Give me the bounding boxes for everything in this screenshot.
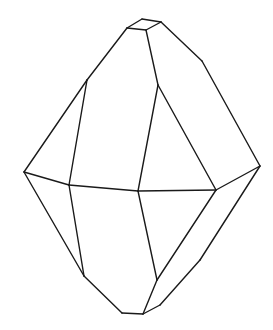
crystal-edge xyxy=(200,166,260,260)
crystal-edge xyxy=(84,276,122,313)
crystal-edge xyxy=(146,22,161,30)
crystal-edge xyxy=(142,19,161,22)
crystal-edge xyxy=(127,28,146,30)
crystal-edge xyxy=(138,85,158,191)
crystal-edge xyxy=(138,190,216,191)
crystal-edge xyxy=(127,19,142,28)
crystal-edge xyxy=(87,28,127,80)
crystal-edge xyxy=(122,313,143,314)
crystal-edge xyxy=(161,22,202,61)
crystal-edge xyxy=(216,166,260,190)
crystal-edge xyxy=(146,30,158,85)
crystal-edge xyxy=(158,85,216,190)
crystal-edge xyxy=(69,185,138,191)
crystal-edge xyxy=(69,80,87,185)
crystal-edge xyxy=(138,191,157,280)
crystal-edge xyxy=(157,190,216,280)
crystal-edge xyxy=(143,280,157,314)
crystal-drawing xyxy=(0,0,273,330)
crystal-edge xyxy=(202,61,260,166)
crystal-edge xyxy=(24,80,87,172)
